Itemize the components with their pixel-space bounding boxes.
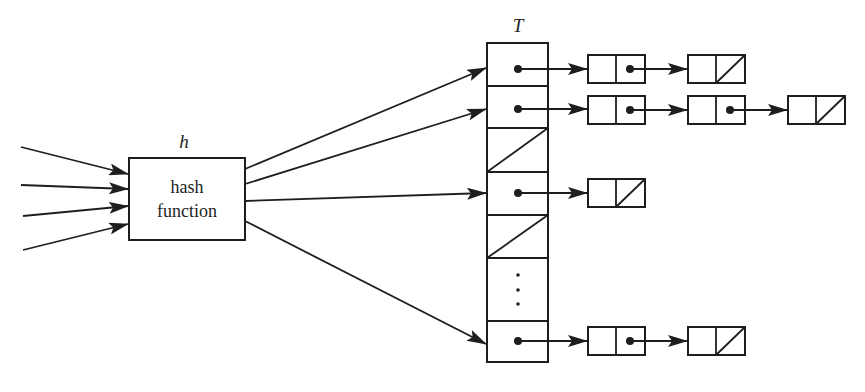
table-label: T [513, 15, 525, 36]
hash-output-arrows [245, 68, 486, 344]
output-arrow-slot-6 [245, 221, 486, 344]
input-arrow-2 [21, 185, 128, 189]
chain-slot-6 [518, 327, 745, 355]
output-arrow-slot-1 [245, 109, 486, 184]
hash-function-label: h [179, 131, 189, 152]
input-arrow-1 [21, 147, 128, 174]
input-arrow-4 [23, 224, 128, 250]
hash-function-text-line1: hash [171, 177, 204, 197]
ellipsis-dot [516, 273, 520, 277]
chain-slot-1 [518, 96, 845, 124]
output-arrow-slot-0 [245, 68, 486, 169]
hash-table: T [487, 15, 548, 362]
ellipsis-dot [516, 302, 520, 306]
chain-slot-0 [518, 55, 745, 83]
input-arrows [21, 147, 128, 250]
table-outline [487, 43, 548, 362]
hash-function: h hash function [129, 131, 245, 240]
hash-table-chaining-diagram: h hash function T [0, 0, 865, 392]
hash-function-text-line2: function [157, 201, 217, 221]
output-arrow-slot-3 [245, 193, 486, 201]
ellipsis-dot [516, 288, 520, 292]
input-arrow-3 [23, 206, 128, 216]
hash-function-box [129, 158, 245, 240]
